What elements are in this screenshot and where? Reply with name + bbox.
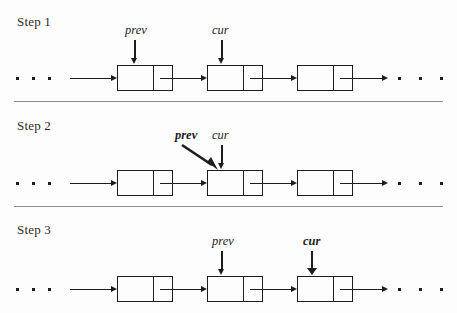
- node-cell-divider: [153, 277, 154, 301]
- leading-ellipsis-dot: [32, 182, 35, 185]
- step-2-title: Step 2: [17, 118, 51, 134]
- step-3-cur-label: cur: [303, 234, 320, 249]
- node-cell-divider: [333, 66, 334, 90]
- leading-ellipsis-dot: [32, 77, 35, 80]
- trailing-ellipsis-dot: [419, 288, 422, 291]
- step-2-link-1-2-head: [201, 180, 207, 186]
- node-cell-divider: [153, 171, 154, 195]
- step-1-prev-arrow-head: [131, 58, 137, 64]
- step-1-incoming-link: [70, 78, 111, 80]
- step-2-link-1-2: [160, 183, 201, 185]
- step-2-cur-label: cur: [212, 128, 229, 143]
- trailing-ellipsis-dot: [398, 182, 401, 185]
- step-2-cur-arrow-shaft: [221, 145, 223, 164]
- step-2-prev-label: prev: [175, 128, 197, 143]
- leading-ellipsis-dot: [48, 182, 51, 185]
- node-cell-divider: [243, 66, 244, 90]
- node-cell-divider: [243, 171, 244, 195]
- panel-separator-2: [14, 206, 443, 207]
- leading-ellipsis-dot: [16, 77, 19, 80]
- step-2-link-2-3-head: [291, 180, 297, 186]
- step-3-prev-label: prev: [212, 234, 234, 249]
- step-1-link-2-3: [250, 78, 291, 80]
- step-1-prev-arrow-shaft: [134, 40, 136, 59]
- step-1-cur-arrow-head: [218, 58, 224, 64]
- step-3-outgoing-link: [340, 289, 382, 291]
- step-2-outgoing-link-head: [382, 180, 388, 186]
- step-3-link-2-3: [250, 289, 291, 291]
- step-3-outgoing-link-head: [382, 286, 388, 292]
- step-1-outgoing-link-head: [382, 75, 388, 81]
- step-1-link-1-2: [160, 78, 201, 80]
- trailing-ellipsis-dot: [440, 288, 443, 291]
- linked-list-diagram: Step 1 prev cur: [0, 0, 457, 313]
- node-cell-divider: [153, 66, 154, 90]
- leading-ellipsis-dot: [48, 288, 51, 291]
- step-1-link-1-2-head: [201, 75, 207, 81]
- leading-ellipsis-dot: [48, 77, 51, 80]
- step-3-cur-arrow-head: [307, 268, 317, 275]
- trailing-ellipsis-dot: [419, 77, 422, 80]
- trailing-ellipsis-dot: [398, 77, 401, 80]
- step-2-link-2-3: [250, 183, 291, 185]
- leading-ellipsis-dot: [16, 182, 19, 185]
- step-1-link-2-3-head: [291, 75, 297, 81]
- node-cell-divider: [333, 277, 334, 301]
- step-3-link-1-2: [160, 289, 201, 291]
- step-1-cur-arrow-shaft: [221, 40, 223, 59]
- step-3-link-2-3-head: [291, 286, 297, 292]
- trailing-ellipsis-dot: [419, 182, 422, 185]
- step-3-link-1-2-head: [201, 286, 207, 292]
- step-3-title: Step 3: [17, 222, 51, 238]
- step-1-outgoing-link: [340, 78, 382, 80]
- node-cell-divider: [243, 277, 244, 301]
- panel-separator-1: [14, 101, 443, 102]
- step-3-prev-arrow-head: [218, 269, 224, 275]
- step-1-cur-label: cur: [212, 23, 229, 38]
- step-2-outgoing-link: [340, 183, 382, 185]
- leading-ellipsis-dot: [32, 288, 35, 291]
- step-1-title: Step 1: [17, 14, 51, 30]
- step-3-cur-arrow-shaft: [311, 251, 313, 269]
- step-1-prev-label: prev: [125, 23, 147, 38]
- trailing-ellipsis-dot: [440, 182, 443, 185]
- step-3-incoming-link: [70, 289, 111, 291]
- step-2-cur-arrow-head: [218, 163, 224, 169]
- node-cell-divider: [333, 171, 334, 195]
- step-2-incoming-link: [70, 183, 111, 185]
- leading-ellipsis-dot: [16, 288, 19, 291]
- step-3-prev-arrow-shaft: [221, 251, 223, 270]
- trailing-ellipsis-dot: [440, 77, 443, 80]
- trailing-ellipsis-dot: [398, 288, 401, 291]
